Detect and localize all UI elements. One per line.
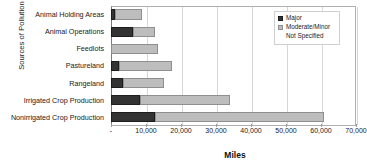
category-label: Pastureland	[0, 57, 108, 74]
x-axis-tick-labels: -10,00020,00030,00040,00050,00060,00070,…	[0, 127, 359, 139]
bar-segment-moderate-minor	[155, 112, 324, 122]
x-tick-label: 40,000	[240, 127, 261, 134]
bar-row	[111, 57, 356, 74]
category-label: Animal Operations	[0, 23, 108, 40]
category-label: Rangeland	[0, 75, 108, 92]
bar-segment-major	[111, 95, 140, 105]
category-label: Irrigated Crop Production	[0, 92, 108, 109]
x-tick-label: 70,000	[345, 127, 366, 134]
legend-swatch-major-icon	[278, 16, 283, 21]
bar-segment-moderate-minor	[133, 27, 155, 37]
x-tick-mark	[251, 124, 252, 127]
bar-segment-moderate-minor	[115, 9, 142, 19]
category-label: Nonirrigated Crop Production	[0, 109, 108, 126]
x-tick-label: -	[110, 127, 112, 134]
x-tick-mark	[286, 124, 287, 127]
x-tick-label: 30,000	[205, 127, 226, 134]
x-tick-mark	[356, 124, 357, 127]
gridline	[357, 7, 358, 125]
x-tick-label: 20,000	[170, 127, 191, 134]
x-tick-label: 50,000	[275, 127, 296, 134]
legend-swatch-moderate-minor-icon	[278, 25, 283, 30]
x-tick-mark	[146, 124, 147, 127]
category-label: Feedlots	[0, 40, 108, 57]
legend-label: Moderate/Minor	[286, 23, 330, 31]
legend-label: Not Specified	[286, 32, 323, 40]
bar-segment-major	[111, 61, 119, 71]
bar-row	[111, 75, 356, 92]
legend-item[interactable]: Major	[278, 14, 337, 22]
legend-swatch-not-specified-icon	[278, 34, 283, 39]
bar-segment-moderate-minor	[123, 78, 164, 88]
legend-item[interactable]: Moderate/Minor	[278, 23, 337, 31]
legend-label: Major	[286, 14, 302, 22]
x-axis-title: Miles	[111, 150, 359, 160]
x-tick-mark	[111, 124, 112, 127]
bar-segment-major	[111, 78, 123, 88]
x-tick-mark	[321, 124, 322, 127]
bar-segment-moderate-minor	[119, 61, 172, 71]
chart-legend: MajorModerate/MinorNot Specified	[274, 11, 340, 45]
legend-item[interactable]: Not Specified	[278, 32, 337, 40]
bar-segment-moderate-minor	[140, 95, 230, 105]
category-label: Animal Holding Areas	[0, 6, 108, 23]
bar-segment-major	[111, 27, 133, 37]
x-tick-mark	[181, 124, 182, 127]
bar-segment-moderate-minor	[111, 44, 158, 54]
y-axis-category-labels: Animal Holding AreasAnimal OperationsFee…	[0, 6, 108, 126]
bar-row	[111, 109, 356, 126]
x-tick-label: 60,000	[310, 127, 331, 134]
x-tick-label: 10,000	[135, 127, 156, 134]
x-tick-mark	[216, 124, 217, 127]
bar-row	[111, 92, 356, 109]
bar-segment-major	[111, 112, 155, 122]
